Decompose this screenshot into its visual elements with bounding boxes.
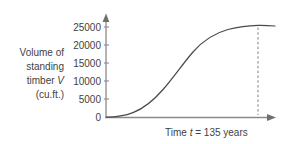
timber-volume-line-chart: Volume of standing timber V (cu.ft.) 250… [0, 0, 283, 144]
timber-volume-curve [107, 25, 276, 117]
y-tick-label-20000: 20000 [73, 40, 101, 51]
x-axis-arrowhead-icon [267, 114, 276, 121]
ylabel-line-4: (cu.ft.) [36, 89, 64, 100]
ylabel-line-1: Volume of [20, 47, 65, 58]
ylabel-line-3: timber V [27, 75, 66, 86]
y-tick-label-0: 0 [95, 112, 101, 123]
chart-figure: Volume of standing timber V (cu.ft.) 250… [0, 0, 283, 144]
y-axis-arrowhead-icon [103, 14, 110, 23]
y-tick-label-5000: 5000 [79, 94, 102, 105]
y-tick-labels-group: 25000 20000 15000 10000 5000 0 [73, 22, 101, 123]
ylabel-line-2: standing [26, 61, 64, 72]
y-tick-label-10000: 10000 [73, 76, 101, 87]
x-axis-caption-prefix: Time [165, 127, 190, 138]
y-tick-label-25000: 25000 [73, 22, 101, 33]
x-axis-caption: Time t = 135 years [165, 127, 248, 138]
ylabel-italic-variable: V [57, 75, 65, 86]
y-axis-caption-group: Volume of standing timber V (cu.ft.) [20, 47, 66, 100]
y-tick-label-15000: 15000 [73, 58, 101, 69]
ylabel-line-3-text: timber [27, 75, 58, 86]
x-axis-caption-suffix: = 135 years [192, 127, 247, 138]
